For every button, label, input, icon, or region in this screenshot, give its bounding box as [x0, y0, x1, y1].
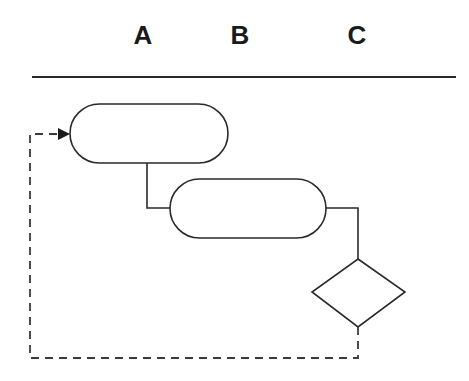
arrowhead-icon [58, 128, 70, 140]
stadium-node-2[interactable] [170, 179, 326, 238]
dashed-loop-back [30, 134, 358, 358]
flowchart-canvas [0, 0, 469, 381]
stadium-node-1[interactable] [70, 104, 228, 163]
decision-diamond[interactable] [312, 259, 405, 327]
connector-2-to-decision [326, 208, 358, 259]
connector-1-to-2 [147, 163, 170, 208]
